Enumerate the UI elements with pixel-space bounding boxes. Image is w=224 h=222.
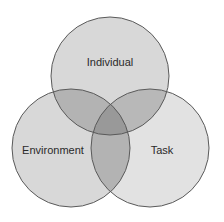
venn-diagram: Individual Environment Task <box>0 0 224 222</box>
label-task: Task <box>151 144 174 156</box>
label-environment: Environment <box>22 144 84 156</box>
label-individual: Individual <box>87 56 133 68</box>
